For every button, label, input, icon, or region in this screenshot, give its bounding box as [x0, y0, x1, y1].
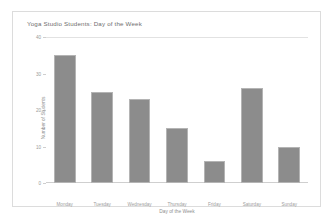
xtick-label-saturday: Saturday: [233, 202, 270, 207]
bar-slot: [233, 37, 270, 183]
bar-slot: [83, 37, 120, 183]
xtick-label-monday: Monday: [46, 202, 83, 207]
chart-figure: Yoga Studio Students: Day of the Week 40…: [12, 11, 321, 207]
bar-friday[interactable]: [204, 161, 226, 183]
plot-area: 40 30 20 10 0: [46, 37, 308, 198]
bar-saturday[interactable]: [241, 88, 263, 183]
bar-slot: [121, 37, 158, 183]
chart-title: Yoga Studio Students: Day of the Week: [27, 20, 142, 27]
xtick-label-friday: Friday: [196, 202, 233, 207]
xtick-label-wednesday: Wednesday: [121, 202, 158, 207]
bar-wednesday[interactable]: [129, 99, 151, 183]
x-axis-title: Day of the Week: [46, 209, 308, 214]
ytick-label-40: 40: [36, 35, 41, 40]
bar-slot: [196, 37, 233, 183]
ytick-mark-0: [43, 183, 46, 184]
ytick-label-0: 0: [38, 181, 41, 186]
bar-thursday[interactable]: [166, 128, 188, 183]
ytick-label-30: 30: [36, 71, 41, 76]
bar-slot: [46, 37, 83, 183]
xtick-label-sunday: Sunday: [271, 202, 308, 207]
bar-tuesday[interactable]: [91, 92, 113, 183]
y-axis-title: Number of Students: [41, 96, 46, 139]
xtick-label-tuesday: Tuesday: [83, 202, 120, 207]
bar-slot: [158, 37, 195, 183]
ytick-label-10: 10: [36, 144, 41, 149]
bar-series: [46, 37, 308, 183]
bar-sunday[interactable]: [278, 147, 300, 184]
bar-monday[interactable]: [54, 55, 76, 183]
x-tick-labels: Monday Tuesday Wednesday Thursday Friday…: [46, 198, 308, 207]
xtick-label-thursday: Thursday: [158, 202, 195, 207]
bar-slot: [271, 37, 308, 183]
